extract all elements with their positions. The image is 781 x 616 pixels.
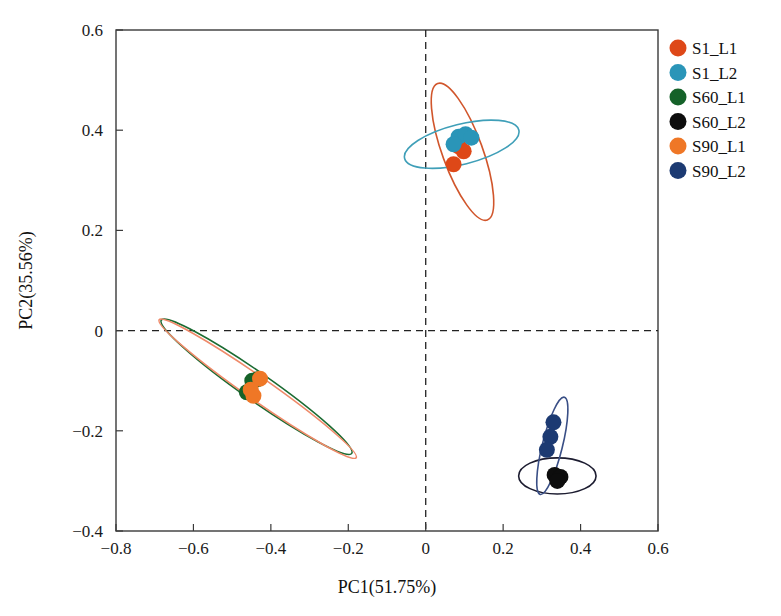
y-tick-label: 0.2 — [82, 221, 103, 240]
legend-label: S90_L1 — [692, 137, 746, 156]
legend-label: S1_L2 — [692, 64, 737, 83]
legend-swatch-icon — [670, 64, 687, 81]
data-point[interactable] — [539, 442, 555, 458]
legend-item-s90_l2[interactable]: S90_L2 — [670, 162, 746, 181]
x-tick-label: 0 — [421, 539, 430, 558]
y-tick-label: −0.2 — [72, 422, 103, 441]
legend-item-s1_l1[interactable]: S1_L1 — [670, 39, 738, 58]
legend-swatch-icon — [670, 138, 687, 155]
x-tick-label: −0.4 — [255, 539, 286, 558]
y-tick-label: −0.4 — [72, 522, 103, 541]
x-tick-label: −0.6 — [178, 539, 209, 558]
legend-label: S60_L2 — [692, 113, 746, 132]
legend-label: S1_L1 — [692, 39, 737, 58]
plot-frame — [116, 30, 658, 531]
legend-item-s90_l1[interactable]: S90_L1 — [670, 137, 746, 156]
x-tick-label: −0.2 — [333, 539, 364, 558]
data-point[interactable] — [446, 136, 462, 152]
legend-swatch-icon — [670, 89, 687, 106]
legend: S1_L1S1_L2S60_L1S60_L2S90_L1S90_L2 — [670, 39, 746, 181]
x-tick-label: −0.8 — [101, 539, 132, 558]
data-point[interactable] — [245, 388, 261, 404]
legend-label: S90_L2 — [692, 162, 746, 181]
y-axis-title: PC2(35.56%) — [16, 231, 37, 330]
data-point[interactable] — [549, 473, 565, 489]
x-tick-label: 0.4 — [570, 539, 592, 558]
legend-label: S60_L1 — [692, 88, 746, 107]
data-point[interactable] — [446, 156, 462, 172]
pca-scatter-plot: −0.8−0.6−0.4−0.200.20.40.6−0.4−0.200.20.… — [0, 0, 781, 616]
data-point[interactable] — [463, 130, 479, 146]
legend-swatch-icon — [670, 162, 687, 179]
y-tick-label: 0.4 — [82, 121, 104, 140]
legend-item-s60_l1[interactable]: S60_L1 — [670, 88, 746, 107]
y-tick-label: 0.6 — [82, 21, 103, 40]
x-tick-label: 0.2 — [493, 539, 514, 558]
legend-swatch-icon — [670, 113, 687, 130]
legend-item-s1_l2[interactable]: S1_L2 — [670, 64, 738, 83]
pca-score-plot-figure: −0.8−0.6−0.4−0.200.20.40.6−0.4−0.200.20.… — [0, 0, 781, 616]
x-tick-label: 0.6 — [647, 539, 668, 558]
legend-swatch-icon — [670, 40, 687, 57]
x-axis-title: PC1(51.75%) — [338, 577, 437, 598]
legend-item-s60_l2[interactable]: S60_L2 — [670, 113, 746, 132]
y-tick-label: 0 — [95, 322, 104, 341]
data-point[interactable] — [545, 414, 561, 430]
